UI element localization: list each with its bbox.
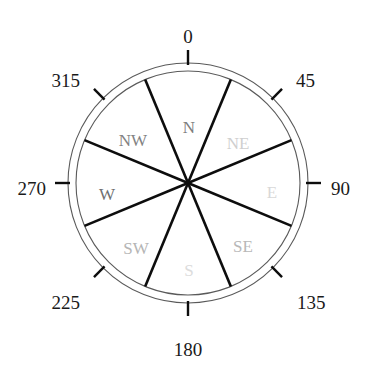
degree-label-225: 225 [52,292,81,313]
sector-label-e: E [267,183,277,202]
compass-rose-svg: NNEESESSWWNW 04590135180225270315 [0,0,365,375]
degree-label-0: 0 [183,26,193,47]
sector-label-nw: NW [119,131,148,150]
degree-label-135: 135 [297,292,326,313]
degree-tick-225 [94,266,105,277]
sector-label-s: S [184,261,193,280]
degree-tick-45 [271,89,282,100]
degree-label-45: 45 [296,70,315,91]
degree-label-180: 180 [174,339,203,360]
degree-label-270: 270 [18,178,47,199]
sector-label-n: N [183,118,195,137]
sector-label-sw: SW [123,239,149,258]
sector-label-ne: NE [227,134,250,153]
degree-tick-135 [271,266,282,277]
degree-label-315: 315 [52,70,81,91]
degree-label-90: 90 [331,178,350,199]
sector-label-w: W [99,185,116,204]
sector-label-se: SE [233,237,253,256]
degree-tick-315 [94,89,105,100]
compass-rose-figure: NNEESESSWWNW 04590135180225270315 [0,0,365,375]
